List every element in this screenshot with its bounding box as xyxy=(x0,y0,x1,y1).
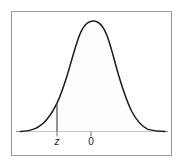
curve-interior-fill xyxy=(21,21,166,132)
zero-axis-label: 0 xyxy=(81,137,101,147)
normal-distribution-figure: z 0 xyxy=(0,0,184,166)
z-axis-label: z xyxy=(47,137,67,147)
